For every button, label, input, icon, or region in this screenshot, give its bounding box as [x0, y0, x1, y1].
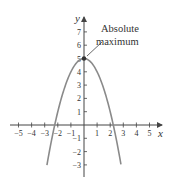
- y-tick-label: 4: [77, 68, 81, 77]
- y-tick-label: 6: [77, 41, 81, 50]
- x-tick-label: −3: [40, 129, 49, 138]
- absolute-maximum-point: [82, 56, 86, 60]
- y-axis-label: y: [74, 12, 80, 24]
- y-ticks: −3−2−11234567: [72, 28, 87, 170]
- x-tick-label: −4: [27, 129, 36, 138]
- annotation-line-2: maximum: [96, 36, 139, 47]
- y-tick-label: 7: [77, 28, 81, 37]
- x-tick-label: 5: [148, 129, 152, 138]
- x-tick-label: −2: [54, 129, 63, 138]
- x-tick-label: 1: [95, 129, 99, 138]
- y-tick-label: 1: [77, 108, 81, 117]
- x-tick-label: −5: [14, 129, 23, 138]
- y-tick-label: 3: [77, 81, 81, 90]
- y-tick-label: 2: [77, 94, 81, 103]
- x-tick-label: 2: [108, 129, 112, 138]
- x-tick-label: 3: [121, 129, 125, 138]
- y-tick-label: −2: [72, 148, 81, 157]
- x-axis-label: x: [157, 127, 163, 139]
- y-tick-label: −1: [72, 134, 81, 143]
- parabola-chart: −5−4−3−2−112345 −3−2−11234567 x y Absolu…: [0, 0, 176, 185]
- y-tick-label: −3: [72, 161, 81, 170]
- x-tick-label: 4: [134, 129, 138, 138]
- annotation-line-1: Absolute: [101, 23, 139, 34]
